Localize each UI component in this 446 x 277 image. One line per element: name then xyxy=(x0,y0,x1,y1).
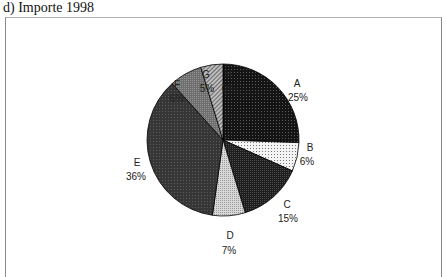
slice-pct-g: 5% xyxy=(200,83,215,94)
slice-label-g: G xyxy=(202,69,210,80)
slice-pct-d: 7% xyxy=(222,245,237,256)
pie-slice-a xyxy=(223,64,299,143)
slice-pct-c: 15% xyxy=(278,213,298,224)
slice-label-b: B xyxy=(307,142,314,153)
slice-pct-e: 36% xyxy=(126,171,146,182)
slice-pct-b: 6% xyxy=(300,156,315,167)
slice-label-c: C xyxy=(283,199,290,210)
slice-pct-h: 0% xyxy=(222,83,237,94)
slice-pct-f: 6% xyxy=(170,93,185,104)
slice-pct-a: 25% xyxy=(288,92,308,103)
slice-label-a: A xyxy=(294,78,301,89)
slice-label-f: F xyxy=(174,79,180,90)
slice-label-d: D xyxy=(226,230,233,241)
slice-label-h: H xyxy=(224,69,231,80)
slice-label-e: E xyxy=(134,157,141,168)
